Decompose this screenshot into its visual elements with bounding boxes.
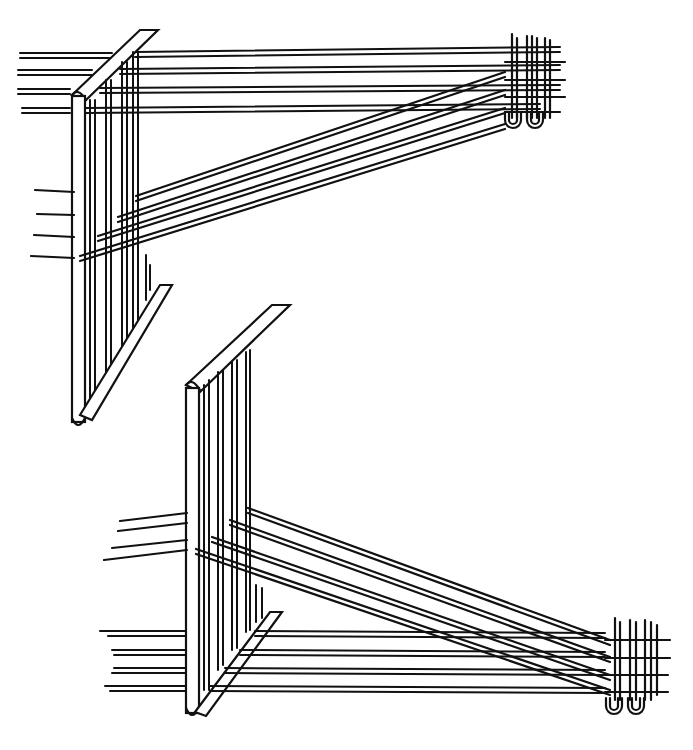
bottom-woven-selvedge bbox=[605, 618, 670, 714]
weaving-diagram bbox=[0, 0, 693, 750]
diagram-canvas: line-illustration bbox=[0, 0, 693, 750]
bottom-weft-stubs bbox=[104, 513, 187, 560]
bottom-vertical-post bbox=[186, 388, 199, 715]
top-warp-threads bbox=[86, 47, 560, 113]
bottom-diagonal-threads bbox=[196, 508, 610, 695]
bottom-panel bbox=[100, 305, 670, 716]
top-slanted-bar bbox=[72, 30, 158, 100]
top-weft-stubs bbox=[31, 190, 74, 258]
top-panel bbox=[18, 30, 565, 425]
top-diagonal-threads bbox=[80, 72, 505, 261]
